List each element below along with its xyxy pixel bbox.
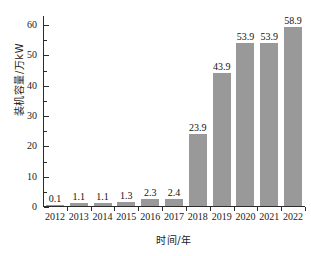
y-tick-label: 60 [17, 20, 37, 30]
y-axis-tick-labels: 0102030405060 [0, 0, 37, 256]
y-tick-label: 20 [17, 141, 37, 151]
y-tick-label: 30 [17, 111, 37, 121]
y-tick-label: 40 [17, 81, 37, 91]
x-axis-title: 时间/年 [43, 232, 305, 247]
y-tick-label: 10 [17, 172, 37, 182]
bar-chart: 装机容量/万kW 0102030405060 0.11.11.11.32.32.… [0, 0, 311, 256]
y-tick-label: 0 [17, 202, 37, 212]
x-axis-tick-labels: 2012201320142015201620172018201920202021… [43, 0, 305, 256]
y-tick-label: 50 [17, 50, 37, 60]
x-tick-label: 2022 [277, 211, 309, 222]
